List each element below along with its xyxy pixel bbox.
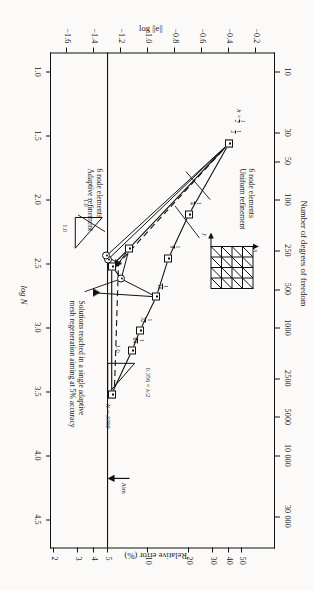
aim-arrow [108,474,130,481]
h-label: h =12 [233,109,245,122]
connector-2 [97,293,156,297]
n-label: N = 3360 [105,403,112,428]
data-point-square [128,346,136,354]
data-point-square [125,244,133,252]
data-point-square [225,139,233,147]
data-point-square [152,292,160,300]
h-value-label: 116 [156,283,168,289]
slope-top-rise: 1.0 [115,344,122,352]
h-value-label: 14 [188,201,200,204]
mesh-axis-label-y: y [202,233,209,236]
h-value-label: 164 [132,337,144,343]
slope-bot-run: 1.0 [62,224,69,232]
data-point-square [164,254,172,262]
mesh-inset-diagram: x y [201,232,259,302]
solutions-label: Solutions reached in a single adaptive m… [67,300,85,427]
connector-3 [121,278,156,296]
figure-canvas: 1.01.52.02.53.03.54.04.51030501002505001… [3,0,314,591]
data-point-square [185,210,193,218]
data-point-square [136,326,144,334]
uniform-label: 6 node elements Uniform refinement [237,168,255,229]
plot-stage: 1.01.52.02.53.03.54.04.51030501002505001… [3,0,314,591]
h-value-label: 132 [140,317,152,323]
data-point-triangle [93,288,100,296]
aim-label: Aim [121,482,128,493]
data-point-triangle [115,259,122,267]
slope-bot-rise: 1.0 [83,198,90,206]
mesh-axis-label-x: x [253,249,260,252]
data-point-square [108,390,116,398]
lambda-label: 0.356 = λ/2 [145,367,152,396]
h-label-lhs: h = [236,109,243,118]
h-value-label: 18 [168,245,180,248]
h-value-label: 12 [229,130,241,133]
